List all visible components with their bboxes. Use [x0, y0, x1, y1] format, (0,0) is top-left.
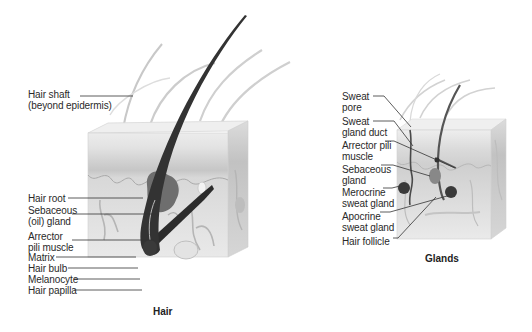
label-text: Sweat — [342, 116, 387, 127]
label-hair-shaft: Hair shaft (beyond epidermis) — [28, 89, 112, 111]
label-text: Hair follicle — [342, 236, 390, 247]
label-hair-bulb: Hair bulb — [28, 263, 67, 274]
diagram-artwork — [0, 0, 532, 332]
label-text: muscle — [342, 151, 391, 162]
label-hair-follicle: Hair follicle — [342, 236, 390, 247]
label-text: sweat gland — [342, 198, 394, 209]
label-hair-papilla: Hair papilla — [28, 285, 77, 296]
label-text: Apocrine — [342, 211, 394, 222]
label-text: pore — [342, 102, 369, 113]
label-text: (beyond epidermis) — [28, 100, 112, 111]
label-text: gland duct — [342, 127, 387, 138]
hair-illustration — [88, 15, 290, 259]
label-arrector-pili-muscle: Arrector pili muscle — [28, 231, 74, 253]
label-arrector-pili-muscle-gland: Arrector pili muscle — [342, 140, 391, 162]
caption-glands: Glands — [425, 253, 459, 264]
label-text: Hair shaft — [28, 89, 112, 100]
label-apocrine-sweat-gland: Apocrine sweat gland — [342, 211, 394, 233]
label-sebaceous-gland: Sebaceous gland — [342, 164, 391, 186]
label-sweat-pore: Sweat pore — [342, 91, 369, 113]
label-sweat-gland-duct: Sweat gland duct — [342, 116, 387, 138]
glands-illustration — [397, 74, 506, 239]
label-melanocyte: Melanocyte — [28, 274, 78, 285]
label-text: Sebaceous — [342, 164, 391, 175]
label-text: Sebaceous — [28, 205, 77, 216]
label-text: Sweat — [342, 91, 369, 102]
label-text: (oil) gland — [28, 216, 77, 227]
caption-hair: Hair — [153, 306, 172, 317]
label-matrix: Matrix — [28, 252, 55, 263]
label-hair-root: Hair root — [28, 193, 65, 204]
label-text: Arrector — [28, 231, 74, 242]
label-text: Hair papilla — [28, 285, 77, 296]
label-text: Hair root — [28, 193, 65, 204]
label-text: Arrector pili — [342, 140, 391, 151]
label-sebaceous-oil-gland: Sebaceous (oil) gland — [28, 205, 77, 227]
label-text: Hair bulb — [28, 263, 67, 274]
label-merocrine-sweat-gland: Merocrine sweat gland — [342, 187, 394, 209]
label-text: gland — [342, 175, 391, 186]
label-text: Merocrine — [342, 187, 394, 198]
skin-anatomy-diagram: Hair shaft (beyond epidermis) Hair root … — [0, 0, 532, 332]
label-text: sweat gland — [342, 222, 394, 233]
label-text: Matrix — [28, 252, 55, 263]
label-text: Melanocyte — [28, 274, 78, 285]
